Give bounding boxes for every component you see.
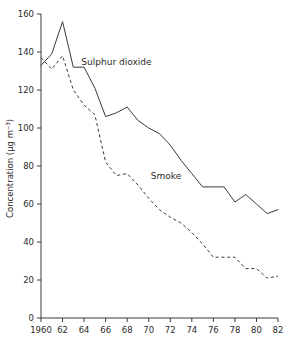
y-tick-label: 140	[18, 47, 34, 57]
series-label-sulphur-dioxide: Sulphur dioxide	[81, 57, 152, 67]
x-tick-label: 70	[143, 325, 154, 335]
x-tick-label: 66	[100, 325, 111, 335]
y-tick-label: 120	[18, 85, 34, 95]
y-axis-tick-labels: 020406080100120140160	[18, 9, 34, 323]
x-tick-label: 82	[273, 325, 284, 335]
y-tick-label: 80	[23, 161, 34, 171]
x-tick-label: 64	[79, 325, 90, 335]
y-tick-label: 100	[18, 123, 34, 133]
x-axis-tick-labels: 19606264666870727476788082	[30, 325, 283, 335]
x-tick-label: 78	[229, 325, 240, 335]
series-line-sulphur-dioxide	[41, 22, 278, 214]
y-tick-label: 60	[23, 199, 34, 209]
y-axis-tick-marks	[37, 14, 41, 318]
concentration-line-chart: 020406080100120140160 196062646668707274…	[0, 0, 289, 339]
y-axis: 020406080100120140160	[18, 9, 41, 323]
data-series-group	[41, 22, 278, 279]
y-tick-label: 40	[23, 237, 34, 247]
x-tick-label: 72	[165, 325, 176, 335]
y-tick-label: 20	[23, 275, 34, 285]
x-axis-tick-marks	[41, 318, 278, 322]
series-label-smoke: Smoke	[151, 171, 182, 181]
chart-figure: 020406080100120140160 196062646668707274…	[0, 0, 289, 339]
x-tick-label: 68	[122, 325, 133, 335]
x-tick-label: 80	[251, 325, 262, 335]
x-tick-label: 74	[186, 325, 197, 335]
x-tick-label: 62	[57, 325, 68, 335]
y-axis-title: Concentration (µg m⁻³)	[5, 119, 15, 218]
x-tick-label: 76	[208, 325, 219, 335]
y-tick-label: 0	[29, 313, 34, 323]
y-tick-label: 160	[18, 9, 34, 19]
series-line-smoke	[41, 56, 278, 278]
x-axis: 19606264666870727476788082	[30, 318, 283, 335]
x-tick-label: 1960	[30, 325, 52, 335]
